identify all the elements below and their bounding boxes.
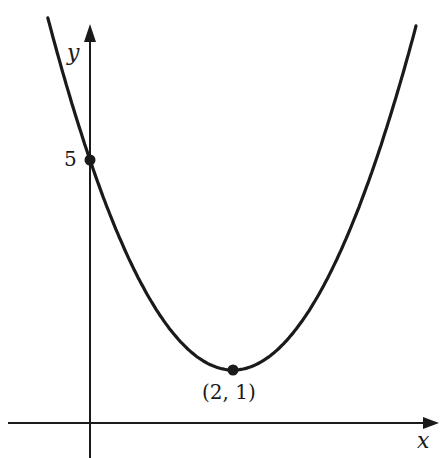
x-axis-label: x bbox=[417, 428, 429, 453]
vertex-label: (2, 1) bbox=[202, 380, 256, 404]
parabola-curve bbox=[48, 18, 416, 370]
chart: y 5 (2, 1) x bbox=[0, 0, 441, 458]
y-axis-label: y bbox=[67, 40, 79, 65]
y-intercept-point bbox=[85, 155, 96, 166]
vertex-point bbox=[228, 365, 239, 376]
y-axis-arrow-icon bbox=[84, 24, 96, 42]
y-intercept-label: 5 bbox=[64, 147, 77, 171]
